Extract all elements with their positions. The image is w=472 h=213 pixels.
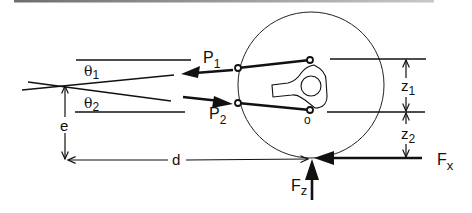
- d-dimension-right: [186, 159, 308, 160]
- lower-link: [238, 103, 310, 110]
- e-label: e: [60, 117, 68, 134]
- pivot-pin-upper-outer: [235, 65, 241, 71]
- upper-link: [238, 60, 310, 68]
- suspension-free-body-diagram: P1 P2 θ1 θ2 z1 z2 Fx Fz e d o: [0, 0, 472, 213]
- fx-label: Fx: [437, 151, 454, 173]
- p1-label: P1: [203, 49, 221, 71]
- upright-knuckle: [272, 65, 327, 108]
- p2-label: P2: [209, 105, 227, 127]
- origin-label: o: [304, 113, 311, 127]
- z1-label: z1: [401, 77, 416, 98]
- pivot-pin-upper-inner: [307, 57, 313, 63]
- p2-force-arrow: [183, 96, 233, 108]
- theta2-label: θ2: [84, 95, 99, 114]
- lower-link-line-of-action: [28, 82, 171, 101]
- pivot-pin-lower-outer: [235, 100, 241, 106]
- z2-label: z2: [401, 125, 416, 146]
- theta1-label: θ1: [84, 63, 99, 82]
- fz-label: Fz: [291, 177, 307, 198]
- p1-force-arrow: [181, 66, 233, 78]
- d-label: d: [172, 151, 180, 168]
- top-rule: [14, 0, 434, 3]
